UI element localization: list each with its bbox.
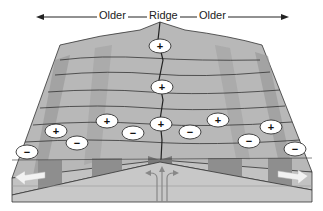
svg-text:+: + xyxy=(159,81,165,93)
normal-polarity-marker: + xyxy=(150,117,172,131)
reversed-polarity-marker: − xyxy=(122,126,144,140)
svg-text:+: + xyxy=(104,115,110,127)
svg-text:−: − xyxy=(74,137,80,149)
normal-polarity-marker: + xyxy=(260,120,282,134)
svg-text:−: − xyxy=(246,135,252,147)
normal-polarity-marker: + xyxy=(151,80,173,94)
reversed-polarity-marker: − xyxy=(238,134,260,148)
svg-text:+: + xyxy=(158,118,164,130)
svg-text:+: + xyxy=(53,125,59,137)
reversed-polarity-marker: − xyxy=(16,145,38,159)
reversed-polarity-marker: − xyxy=(179,125,201,139)
svg-text:−: − xyxy=(24,146,30,158)
normal-polarity-marker: + xyxy=(207,113,229,127)
label-ridge: Ridge xyxy=(147,9,180,21)
svg-text:+: + xyxy=(268,121,274,133)
reversed-polarity-marker: − xyxy=(66,136,88,150)
normal-polarity-marker: + xyxy=(96,114,118,128)
label-older-left: Older xyxy=(97,9,128,21)
label-older-right: Older xyxy=(197,9,228,21)
arrow-left-icon xyxy=(36,14,44,20)
svg-text:−: − xyxy=(292,143,298,155)
svg-text:−: − xyxy=(187,126,193,138)
svg-text:−: − xyxy=(130,127,136,139)
diagram-canvas: +++++++−−−−−− xyxy=(0,0,323,211)
svg-text:+: + xyxy=(157,40,163,52)
reversed-polarity-marker: − xyxy=(284,142,306,156)
normal-polarity-marker: + xyxy=(45,124,67,138)
arrow-right-icon xyxy=(281,14,289,20)
svg-text:+: + xyxy=(215,114,221,126)
normal-polarity-marker: + xyxy=(149,39,171,53)
seafloor-spreading-diagram: +++++++−−−−−− Older Ridge Older xyxy=(0,0,323,211)
